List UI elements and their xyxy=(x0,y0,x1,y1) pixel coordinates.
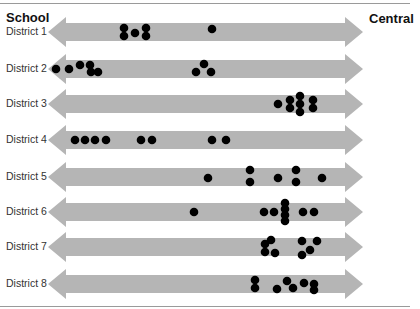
data-dot xyxy=(296,108,305,117)
data-dot xyxy=(204,174,213,183)
data-dot xyxy=(200,60,209,69)
data-dot xyxy=(296,92,305,101)
data-dot xyxy=(91,136,100,145)
data-dot xyxy=(148,136,157,145)
data-dot xyxy=(52,65,61,74)
data-dot xyxy=(137,136,146,145)
data-dot xyxy=(270,208,279,217)
data-dot xyxy=(120,32,129,41)
data-dot xyxy=(296,100,305,109)
data-dot xyxy=(190,208,199,217)
dot-plot xyxy=(0,0,420,309)
data-dot xyxy=(208,25,217,34)
data-dot xyxy=(120,24,129,33)
data-dot xyxy=(310,286,319,295)
data-dot xyxy=(298,237,307,246)
data-dot xyxy=(65,65,74,74)
data-dot xyxy=(94,68,103,77)
data-dot xyxy=(299,208,308,217)
data-dot xyxy=(261,248,270,257)
data-dot xyxy=(222,136,231,145)
data-dot xyxy=(267,236,276,245)
data-dot xyxy=(81,136,90,145)
data-dot xyxy=(286,96,295,105)
data-dot xyxy=(76,61,85,70)
double-arrow-icon xyxy=(48,232,363,262)
data-dot xyxy=(246,178,255,187)
data-dot xyxy=(142,32,151,41)
data-dot xyxy=(102,136,111,145)
data-dot xyxy=(260,208,269,217)
data-dot xyxy=(271,249,280,258)
data-dot xyxy=(292,166,301,175)
data-dot xyxy=(298,251,307,260)
data-dot xyxy=(281,217,290,226)
data-dot xyxy=(71,136,80,145)
data-dot xyxy=(310,208,319,217)
data-dot xyxy=(309,96,318,105)
data-dot xyxy=(274,100,283,109)
data-dot xyxy=(306,246,315,255)
double-arrow-icon xyxy=(48,17,363,47)
data-dot xyxy=(208,136,217,145)
data-dot xyxy=(289,284,298,293)
data-dot xyxy=(318,174,327,183)
data-dot xyxy=(309,104,318,113)
data-dot xyxy=(131,29,140,38)
data-dot xyxy=(251,276,260,285)
data-dot xyxy=(292,178,301,187)
data-dot xyxy=(251,284,260,293)
data-dot xyxy=(207,68,216,77)
data-dot xyxy=(273,285,282,294)
data-dot xyxy=(142,24,151,33)
double-arrow-icon xyxy=(48,89,363,119)
data-dot xyxy=(300,279,309,288)
data-dot xyxy=(313,237,322,246)
data-dot xyxy=(286,104,295,113)
data-dot xyxy=(274,174,283,183)
data-dot xyxy=(192,68,201,77)
data-dot xyxy=(283,277,292,286)
data-dot xyxy=(246,166,255,175)
